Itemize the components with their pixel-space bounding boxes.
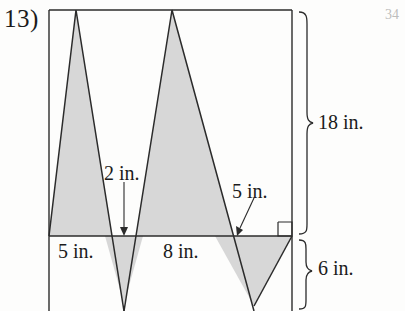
dimension-label-height-18: 18 in. xyxy=(318,112,364,132)
leader-line-5in xyxy=(240,198,254,228)
dimension-label-depth-6: 6 in. xyxy=(318,258,354,278)
dimension-label-valley-2: 2 in. xyxy=(104,163,140,183)
dimension-label-base-5: 5 in. xyxy=(58,241,94,261)
arrowhead-5in xyxy=(236,226,243,236)
dimension-label-base-8: 8 in. xyxy=(163,241,199,261)
worksheet-page: 13) 34 18 in. 6 in. 2 in. 5 in. 5 in. 8 … xyxy=(0,0,405,311)
brace-6in xyxy=(299,240,312,309)
brace-18in xyxy=(299,12,313,234)
problem-number: 13) xyxy=(4,6,39,31)
arrowhead-2in xyxy=(120,227,128,236)
right-angle-marker xyxy=(278,222,292,236)
dimension-label-right-5: 5 in. xyxy=(232,181,268,201)
page-number-marker: 34 xyxy=(385,8,399,22)
